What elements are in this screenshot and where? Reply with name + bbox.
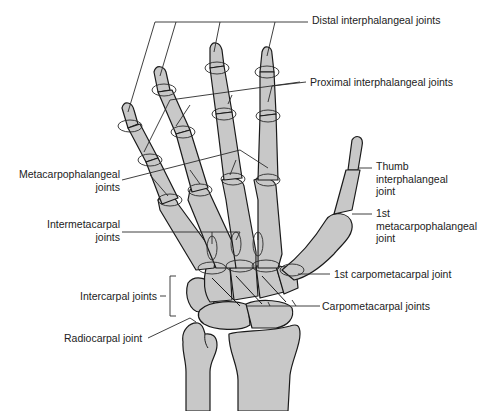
label-intercarpal-joints: Intercarpal joints	[80, 290, 157, 303]
label-distal-interphalangeal-joints: Distal interphalangeal joints	[312, 14, 440, 27]
label-proximal-interphalangeal-joints: Proximal interphalangeal joints	[310, 76, 453, 89]
label-metacarpophalangeal-joints: Metacarpophalangeal joints	[14, 168, 120, 193]
label-first-metacarpophalangeal-joint: 1st metacarpophalangeal joint	[376, 207, 477, 245]
carpal-bones	[187, 266, 298, 329]
forearm-bones	[183, 323, 300, 411]
label-thumb-interphalangeal-joint: Thumb interphalangeal joint	[376, 160, 448, 198]
hand-skeleton-diagram	[0, 0, 500, 411]
label-radiocarpal-joint: Radiocarpal joint	[64, 332, 142, 345]
metacarpals	[158, 178, 352, 280]
label-intermetacarpal-joints: Intermetacarpal joints	[30, 218, 120, 243]
label-first-carpometacarpal-joint: 1st carpometacarpal joint	[334, 268, 451, 281]
label-carpometacarpal-joints: Carpometacarpal joints	[322, 300, 430, 313]
radius	[229, 325, 300, 411]
ulna	[183, 323, 217, 411]
